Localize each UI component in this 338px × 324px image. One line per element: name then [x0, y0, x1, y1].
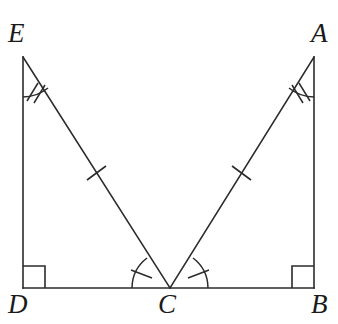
vertex-label-E: E: [8, 20, 25, 47]
vertex-label-C: C: [158, 291, 176, 318]
vertex-label-A: A: [311, 20, 328, 47]
right-angle-B: [292, 266, 314, 288]
vertex-label-D: D: [8, 291, 28, 318]
length-tick-EC: [87, 166, 106, 180]
right-angle-D: [23, 266, 45, 288]
geometry-figure: E A D C B: [0, 0, 338, 324]
vertex-label-B: B: [311, 291, 328, 318]
geometry-canvas: [0, 0, 338, 324]
length-tick-AC: [232, 166, 251, 180]
